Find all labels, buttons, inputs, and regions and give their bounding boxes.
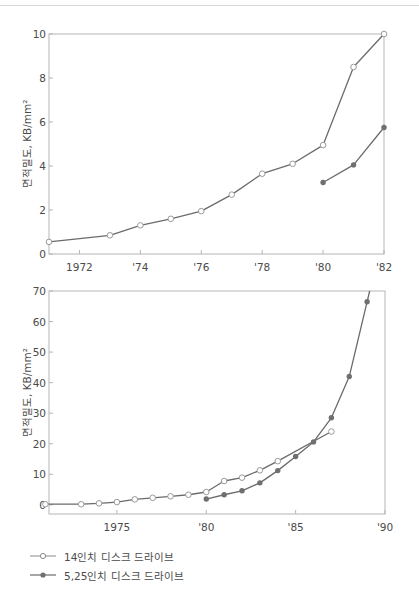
open-circle-marker-icon bbox=[43, 501, 49, 507]
legend-item-5-25-inch: 5,25인치 디스크 드라이브 bbox=[30, 567, 184, 583]
filled-circle-marker-icon bbox=[204, 496, 209, 501]
open-circle-marker-icon bbox=[132, 497, 138, 503]
series-14-inch bbox=[43, 429, 335, 507]
filled-circle-marker-icon bbox=[239, 488, 244, 493]
chart-bottom-areal-density-1971-1990: 0102030405060701975'80'85'90면적밀도, KB/mm² bbox=[0, 0, 419, 591]
series-5-25-inch bbox=[204, 291, 370, 502]
open-circle-marker-icon bbox=[30, 551, 56, 561]
filled-circle-marker-icon bbox=[347, 374, 352, 379]
open-circle-marker-icon bbox=[168, 493, 174, 499]
filled-circle-marker-icon bbox=[329, 415, 334, 420]
filled-circle-marker-icon bbox=[293, 454, 298, 459]
open-circle-marker-icon bbox=[221, 478, 227, 484]
x-tick-label: '90 bbox=[377, 521, 393, 533]
y-tick-label: 10 bbox=[33, 468, 46, 480]
x-tick-label: '85 bbox=[288, 521, 304, 533]
legend-item-14-inch: 14인치 디스크 드라이브 bbox=[30, 548, 184, 564]
open-circle-marker-icon bbox=[96, 501, 102, 507]
legend-label-14-inch: 14인치 디스크 드라이브 bbox=[64, 549, 174, 564]
y-axis-label: 면적밀도, KB/mm² bbox=[21, 348, 33, 437]
open-circle-marker-icon bbox=[150, 495, 156, 501]
y-tick-label: 40 bbox=[33, 377, 46, 389]
y-tick-label: 50 bbox=[33, 346, 46, 358]
x-tick-label: '80 bbox=[198, 521, 214, 533]
y-tick-label: 70 bbox=[33, 285, 46, 297]
x-tick-label: 1975 bbox=[104, 521, 131, 533]
open-circle-marker-icon bbox=[203, 489, 209, 495]
chart-legend: 14인치 디스크 드라이브 5,25인치 디스크 드라이브 bbox=[30, 548, 184, 586]
filled-circle-marker-icon bbox=[221, 492, 226, 497]
filled-circle-marker-icon bbox=[257, 480, 262, 485]
open-circle-marker-icon bbox=[257, 468, 263, 474]
y-tick-label: 20 bbox=[33, 438, 46, 450]
filled-circle-marker-icon bbox=[30, 570, 56, 580]
open-circle-marker-icon bbox=[275, 458, 281, 464]
plot-frame bbox=[49, 291, 385, 514]
open-circle-marker-icon bbox=[239, 475, 245, 481]
y-tick-label: 30 bbox=[33, 407, 46, 419]
y-tick-label: 60 bbox=[33, 316, 46, 328]
filled-circle-marker-icon bbox=[275, 468, 280, 473]
open-circle-marker-icon bbox=[186, 492, 192, 498]
filled-circle-marker-icon bbox=[311, 439, 316, 444]
legend-label-5-25-inch: 5,25인치 디스크 드라이브 bbox=[64, 568, 184, 583]
open-circle-marker-icon bbox=[114, 499, 120, 505]
filled-circle-marker-icon bbox=[364, 299, 369, 304]
open-circle-marker-icon bbox=[78, 501, 84, 507]
open-circle-marker-icon bbox=[329, 429, 335, 435]
